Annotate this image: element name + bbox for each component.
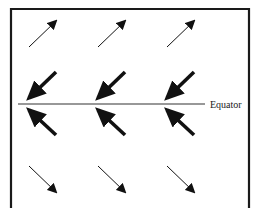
arrow-southwest-icon — [167, 72, 194, 98]
arrow-northwest-icon — [167, 110, 194, 135]
arrow-northeast-icon — [29, 21, 56, 47]
wind-pattern-diagram: Equator — [0, 0, 261, 208]
arrow-southeast-icon — [167, 166, 194, 192]
arrow-southwest-icon — [98, 72, 125, 98]
wind-arrows — [29, 21, 194, 192]
arrow-southeast-icon — [29, 166, 56, 192]
arrow-northwest-icon — [29, 110, 56, 135]
arrow-northeast-icon — [167, 21, 194, 47]
equator-label: Equator — [210, 99, 242, 110]
arrow-southwest-icon — [29, 72, 56, 98]
arrow-northwest-icon — [98, 110, 125, 135]
arrow-northeast-icon — [98, 21, 125, 47]
arrow-southeast-icon — [98, 166, 125, 192]
